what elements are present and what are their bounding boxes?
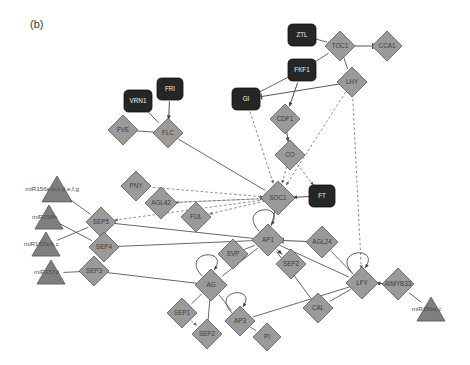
node-shape — [372, 31, 402, 61]
edge-FT-SOC1 — [293, 197, 310, 198]
node-cca1[interactable]: CCA1 — [372, 31, 402, 61]
edge-AG-SEP1 — [192, 294, 202, 304]
node-shape — [157, 78, 183, 100]
edge-miR159ac-AtMYB33 — [409, 293, 421, 303]
edge-FKF1-GI — [259, 76, 290, 92]
node-shape — [86, 207, 116, 237]
figure-panel: (b) ZTLTOC1CCA1FKF1LHYFRIVRN1GIFVEFLCCDF… — [0, 0, 470, 365]
edge-TOC1-LHY — [344, 57, 348, 69]
node-shape — [270, 104, 300, 134]
edge-AP3-PI — [250, 327, 256, 330]
edge-AG-SEP2 — [208, 298, 210, 321]
node-mir156a-b-c-d-e-f-g[interactable]: miR156a,b,c,d,e,f,g — [25, 176, 79, 202]
node-mir159a-c[interactable]: miR159a,c — [412, 297, 445, 321]
node-shape — [35, 205, 63, 229]
node-mir157d[interactable]: miR157d — [34, 260, 65, 284]
node-atmyb33[interactable]: AtMYB33 — [382, 268, 414, 300]
node-shape — [192, 319, 222, 349]
edge-FVE-FLC — [135, 131, 155, 132]
node-pi[interactable]: PI — [253, 323, 281, 351]
node-fve[interactable]: FVE — [108, 115, 138, 145]
node-pny[interactable]: PNY — [121, 171, 151, 201]
node-shape — [309, 185, 335, 207]
edge-SEP5-AP1 — [113, 223, 254, 238]
node-shape — [337, 67, 367, 97]
node-shape — [288, 59, 316, 81]
node-shape — [121, 171, 151, 201]
edge-LFY-CAL — [330, 289, 351, 301]
node-mir157a-b-c[interactable]: miR157a,b,c — [24, 232, 60, 256]
edge-LHY-GI — [261, 84, 341, 97]
node-flc[interactable]: FLC — [153, 118, 183, 148]
node-sep5[interactable]: SEP5 — [86, 207, 116, 237]
node-fri[interactable]: FRI — [157, 78, 183, 100]
node-cal[interactable]: CAL — [303, 293, 333, 323]
edge-LFY-AP3 — [253, 287, 350, 317]
edge-CO-FT — [297, 164, 313, 185]
node-shape — [232, 88, 260, 110]
node-ft[interactable]: FT — [309, 185, 335, 207]
node-shape — [218, 239, 248, 269]
node-shape — [325, 31, 355, 61]
edge-VRN1-FLC — [147, 111, 159, 123]
node-shape — [124, 90, 152, 112]
node-shape — [32, 232, 60, 256]
node-shape — [181, 202, 211, 232]
edge-SVP-AP1 — [244, 245, 255, 249]
edge-FLC-SOC1 — [178, 139, 265, 190]
edge-LHY-SOC1 — [286, 92, 345, 185]
node-co[interactable]: CO — [275, 140, 305, 170]
node-shape — [275, 140, 305, 170]
node-lhy[interactable]: LHY — [337, 67, 367, 97]
node-vrn1[interactable]: VRN1 — [124, 90, 152, 112]
edge-ZTL-TOC1 — [315, 39, 327, 43]
node-gi[interactable]: GI — [232, 88, 260, 110]
node-sep2[interactable]: SEP2 — [192, 319, 222, 349]
node-ztl[interactable]: ZTL — [288, 24, 316, 46]
edge-AGL24-LFY — [331, 251, 352, 273]
node-shape — [288, 24, 316, 46]
node-shape — [382, 268, 414, 300]
node-layer: ZTLTOC1CCA1FKF1LHYFRIVRN1GIFVEFLCCDF1COP… — [24, 24, 445, 351]
node-fkf1[interactable]: FKF1 — [288, 59, 316, 81]
edge-AG-AP3 — [219, 295, 232, 311]
node-svp[interactable]: SVP — [218, 239, 248, 269]
node-shape — [417, 297, 445, 321]
edge-FRI-FLC — [169, 101, 170, 119]
edge-SEP3-AG — [106, 272, 197, 283]
edge-LHY-LFY — [353, 94, 362, 269]
node-cdf1[interactable]: CDF1 — [270, 104, 300, 134]
node-shape — [153, 118, 183, 148]
node-agl42[interactable]: AGL42 — [145, 187, 177, 219]
node-shape — [253, 323, 281, 351]
network-diagram: ZTLTOC1CCA1FKF1LHYFRIVRN1GIFVEFLCCDF1COP… — [0, 0, 470, 365]
node-mir156h[interactable]: miR156h — [32, 205, 63, 229]
node-shape — [42, 176, 72, 202]
node-toc1[interactable]: TOC1 — [325, 31, 355, 61]
node-shape — [303, 293, 333, 323]
node-shape — [108, 115, 138, 145]
edge-miR157d-SEP3 — [63, 272, 80, 273]
edge-AGL24-AP1 — [282, 241, 309, 242]
node-ful[interactable]: FUL — [181, 202, 211, 232]
edge-GI-SOC1 — [250, 112, 273, 184]
node-shape — [145, 187, 177, 219]
edge-SEP1-SEP2 — [191, 321, 196, 326]
edge-CO-SOC1 — [282, 167, 287, 184]
node-shape — [37, 260, 65, 284]
edge-FKF1-CDF1 — [289, 83, 297, 107]
